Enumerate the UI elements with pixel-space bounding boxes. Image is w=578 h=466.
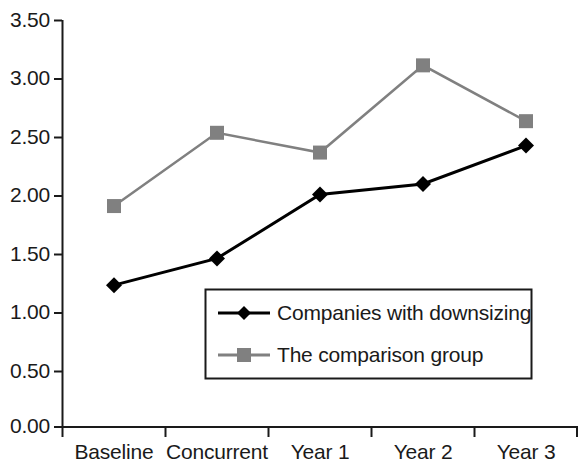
y-tick-label-2-00: 2.00 [0,183,50,207]
data-point-square [416,58,430,72]
y-tick-label-0-50: 0.50 [0,359,50,383]
data-point-square [107,199,121,213]
line-chart: 3.50 3.00 2.50 2.00 1.50 1.00 0.50 0.00 … [0,0,578,466]
chart-canvas [0,0,578,466]
series-line [114,65,526,206]
y-tick-label-1-00: 1.00 [0,300,50,324]
x-tick-label-baseline: Baseline [62,440,166,464]
data-point-diamond [312,186,328,202]
y-tick-label-2-50: 2.50 [0,125,50,149]
x-axis-ticks [63,427,578,437]
data-point-square [210,126,224,140]
legend-label-downsizing: Companies with downsizing [277,301,531,325]
series-layer [106,58,534,293]
y-axis-ticks [54,21,62,428]
series-downsizing [106,138,534,294]
x-tick-label-year-1: Year 1 [268,440,372,464]
data-point-diamond [518,138,534,154]
y-tick-label-3-00: 3.00 [0,66,50,90]
y-tick-label-3-50: 3.50 [0,8,50,32]
legend-label-comparison: The comparison group [277,343,483,367]
series-line [114,146,526,286]
data-point-diamond [415,176,431,192]
data-point-diamond [209,250,225,266]
x-tick-label-year-2: Year 2 [371,440,475,464]
data-point-square [519,114,533,128]
x-tick-label-concurrent: Concurrent [165,440,269,464]
x-tick-label-year-3: Year 3 [474,440,578,464]
y-tick-label-1-50: 1.50 [0,242,50,266]
data-point-diamond [106,277,122,293]
y-tick-label-0-00: 0.00 [0,414,50,438]
data-point-square [313,146,327,160]
